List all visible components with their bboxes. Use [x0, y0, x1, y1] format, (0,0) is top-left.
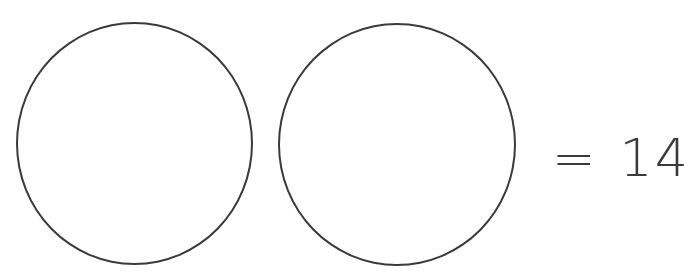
equation-result: =14 — [552, 128, 684, 188]
equation-diagram: =14 — [0, 0, 684, 277]
empty-circle-1 — [16, 22, 253, 265]
equals-sign: = — [552, 128, 598, 188]
empty-circle-2 — [278, 23, 516, 266]
total-value: 14 — [620, 128, 684, 188]
